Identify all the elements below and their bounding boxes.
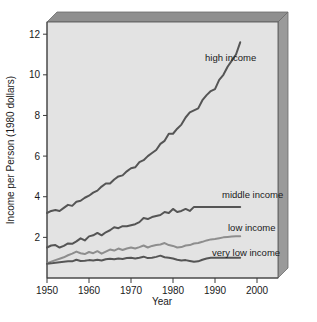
y-tick-label: 10	[29, 69, 41, 80]
x-tick-label: 1980	[162, 285, 185, 296]
x-tick-label: 2000	[246, 285, 269, 296]
series-label-low-income: low income	[228, 222, 276, 233]
y-axis-ticks: 24681012	[29, 29, 47, 243]
y-tick-label: 2	[34, 232, 40, 243]
y-axis-title: Income per Person (1980 dollars)	[5, 76, 16, 224]
x-axis-ticks: 195019601970198019902000	[36, 278, 269, 296]
y-tick-label: 12	[29, 29, 41, 40]
x-tick-label: 1990	[204, 285, 227, 296]
y-tick-label: 8	[34, 110, 40, 121]
income-per-person-line-chart: 24681012 195019601970198019902000 high i…	[0, 0, 317, 322]
series-label-very-low-income: very low income	[212, 247, 280, 258]
x-tick-label: 1960	[78, 285, 101, 296]
y-tick-label: 6	[34, 151, 40, 162]
x-tick-label: 1970	[120, 285, 143, 296]
chart-3d-side-face	[278, 12, 288, 278]
chart-3d-top-face	[47, 12, 288, 22]
series-label-high-income: high income	[205, 52, 256, 63]
x-axis-title: Year	[152, 296, 173, 307]
y-tick-label: 4	[34, 191, 40, 202]
chart-figure: 24681012 195019601970198019902000 high i…	[0, 0, 317, 322]
x-tick-label: 1950	[36, 285, 59, 296]
series-label-middle-income: middle income	[222, 189, 283, 200]
